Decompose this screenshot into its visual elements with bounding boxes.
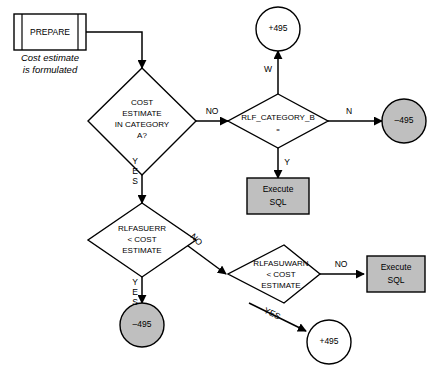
node-minus-495-right[interactable]: –495	[382, 99, 426, 143]
cost-decision-line2: ESTIMATE	[122, 109, 161, 118]
prepare-caption-line2: is formulated	[23, 64, 78, 75]
cost-decision-line4: A?	[137, 131, 147, 140]
edge-label-rlfb-y: Y	[284, 157, 290, 167]
edge-label-rlfasuerr-yes-s: S	[132, 297, 138, 307]
rlfb-decision-line2: =	[276, 127, 280, 133]
edge-label-cost-yes-y: Y	[132, 156, 138, 166]
edge-label-cost-yes-s: S	[132, 176, 138, 186]
plus-495-top-label: +495	[268, 23, 287, 33]
node-execute-sql-middle[interactable]: Execute SQL	[247, 178, 309, 214]
edge-label-rlfb-n: N	[346, 106, 352, 116]
node-plus-495-top[interactable]: +495	[256, 7, 300, 51]
node-minus-495-bottom[interactable]: –495	[120, 303, 164, 347]
execute-sql-middle-line2: SQL	[269, 197, 286, 207]
execute-sql-right-line1: Execute	[381, 262, 412, 272]
node-rlfasuwarn-decision[interactable]: RLFASUWARN < COST ESTIMATE	[228, 245, 320, 303]
connectors	[86, 32, 382, 331]
edge-label-rlfasuwarn-no: NO	[335, 259, 348, 269]
rlfasuerr-line2: < COST	[127, 235, 156, 244]
edge-label-rlfasuwarn-yes: YES	[262, 305, 282, 322]
node-rlf-category-b-decision[interactable]: RLF_CATEGORY_B =	[228, 94, 328, 148]
cost-decision-line3: IN CATEGORY	[115, 120, 170, 129]
edge-label-rlfasuerr-yes-y: Y	[132, 277, 138, 287]
prepare-caption-line1: Cost estimate	[21, 52, 79, 63]
rlfb-decision-line1: RLF_CATEGORY_B	[241, 113, 315, 122]
cost-decision-line1: COST	[131, 98, 153, 107]
node-rlfasuerr-decision[interactable]: RLFASUERR < COST ESTIMATE	[88, 203, 196, 277]
edge-label-cost-yes-e: E	[132, 166, 138, 176]
flowchart-canvas: PREPARE Cost estimate is formulated COST…	[0, 0, 434, 373]
node-execute-sql-right[interactable]: Execute SQL	[367, 256, 425, 292]
edge-prepare-to-cost	[86, 32, 142, 68]
rlfasuerr-line1: RLFASUERR	[118, 224, 166, 233]
execute-sql-right-line2: SQL	[387, 275, 404, 285]
edge-label-cost-no: NO	[206, 106, 219, 116]
rlfasuwarn-line3: ESTIMATE	[261, 281, 300, 290]
rlfasuwarn-line1: RLFASUWARN	[253, 259, 308, 268]
plus-495-bottom-label: +495	[319, 336, 338, 346]
flowchart-svg: PREPARE Cost estimate is formulated COST…	[0, 0, 434, 373]
edge-label-rlfasuerr-no: NO	[189, 231, 205, 247]
minus-495-right-label: –495	[395, 115, 414, 125]
node-prepare[interactable]: PREPARE	[14, 14, 86, 50]
edge-label-rlfasuerr-yes-e: E	[132, 287, 138, 297]
rlfasuerr-line3: ESTIMATE	[122, 246, 161, 255]
execute-sql-middle-line1: Execute	[263, 184, 294, 194]
minus-495-bottom-label: –495	[133, 319, 152, 329]
node-plus-495-bottom[interactable]: +495	[307, 320, 351, 364]
rlfasuwarn-line2: < COST	[266, 270, 295, 279]
prepare-label: PREPARE	[30, 27, 70, 37]
node-cost-estimate-category-decision[interactable]: COST ESTIMATE IN CATEGORY A?	[88, 68, 196, 175]
edge-label-rlfb-w: W	[264, 64, 272, 74]
